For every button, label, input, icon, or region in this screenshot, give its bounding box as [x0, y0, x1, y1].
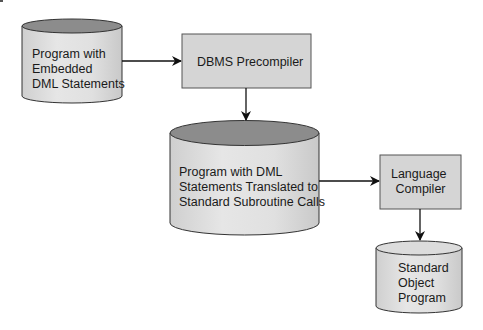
node-source-program-cylinder: Program with Embedded DML Statements: [22, 19, 125, 103]
node-language-compiler-box: Language Compiler: [380, 155, 461, 209]
node-precompiler-label: DBMS Precompiler: [197, 55, 303, 69]
node-object-program-cylinder: Standard Object Program: [376, 241, 462, 313]
node-compiler-label: Language Compiler: [391, 167, 450, 196]
node-translated-program-cylinder: Program with DML Statements Translated t…: [170, 121, 325, 236]
node-dbms-precompiler-box: DBMS Precompiler: [182, 34, 311, 88]
dbms-precompile-flow-diagram: Program with Embedded DML Statements DBM…: [0, 0, 483, 330]
